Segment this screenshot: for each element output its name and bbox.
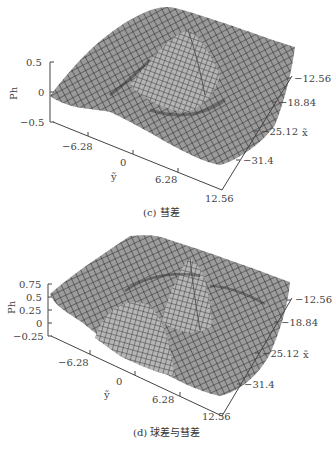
y-tick-c-0: −6.28 [62, 142, 93, 152]
y-tick-c-2: 6.28 [155, 175, 177, 185]
y-tick-d-3: 12.56 [202, 412, 231, 422]
x-tick-d-3: −31.4 [244, 380, 275, 390]
x-axis-label-c: x̃ [302, 128, 308, 138]
y-tick-c-1: 0 [120, 158, 126, 168]
z-tick-c-1: 0 [38, 88, 44, 98]
y-tick-d-2: 6.28 [152, 395, 174, 405]
panel-d: Ph 0.75 0.5 0.25 0 −0.25 −6.28 0 6.28 12… [0, 226, 332, 452]
y-axis-label-d: ỹ [104, 390, 110, 400]
x-tick-c-2: −25.12 [261, 127, 298, 137]
surface-plot-c [0, 0, 332, 226]
z-tick-c-0: 0.5 [26, 58, 42, 68]
caption-d: (d) 球差与彗差 [133, 428, 200, 438]
z-tick-d-1: 0.5 [26, 293, 42, 303]
y-tick-d-0: −6.28 [58, 358, 89, 368]
x-tick-d-1: −18.84 [281, 318, 318, 328]
x-tick-c-3: −31.4 [243, 156, 274, 166]
z-tick-d-0: 0.75 [19, 280, 41, 290]
x-tick-d-2: −25.12 [262, 349, 299, 359]
z-tick-d-4: −0.25 [13, 332, 44, 342]
z-tick-d-2: 0.25 [19, 306, 41, 316]
x-tick-c-1: −18.84 [279, 98, 316, 108]
y-axis-label-c: ỹ [111, 172, 117, 182]
z-tick-d-3: 0 [36, 319, 42, 329]
z-axis-label-d: Ph [7, 301, 17, 314]
x-tick-c-0: −12.56 [294, 74, 331, 84]
surface-plot-d [0, 226, 332, 452]
x-tick-d-0: −12.56 [295, 295, 332, 305]
y-tick-d-1: 0 [116, 377, 122, 387]
z-tick-c-2: −0.5 [20, 118, 44, 128]
panel-c: Ph 0.5 0 −0.5 −6.28 0 6.28 12.56 ỹ −12.5… [0, 0, 332, 226]
y-tick-c-3: 12.56 [205, 194, 234, 204]
caption-c: (c) 彗差 [143, 208, 180, 218]
z-axis-label-c: Ph [9, 87, 19, 100]
x-axis-label-d: x̃ [303, 350, 309, 360]
